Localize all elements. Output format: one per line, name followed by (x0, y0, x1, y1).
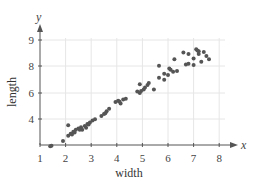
data-point (192, 57, 196, 61)
x-tick-label: 2 (63, 152, 69, 164)
x-tick-label: 5 (140, 152, 146, 164)
x-tick-label: 8 (216, 152, 222, 164)
scatter-chart: x y 12345678 4689 width length (0, 0, 258, 185)
data-point (166, 73, 170, 77)
y-axis-variable: y (35, 10, 42, 24)
x-tick-label: 7 (191, 152, 197, 164)
data-point (162, 72, 166, 76)
x-axis-arrow-icon (230, 142, 238, 148)
data-point (157, 64, 161, 68)
y-tick-label: 9 (29, 34, 35, 46)
data-point (181, 51, 185, 55)
data-point (167, 66, 171, 70)
data-point (207, 57, 211, 61)
x-tick-label: 1 (37, 152, 43, 164)
x-tick-label: 6 (165, 152, 171, 164)
y-axis-label: length (5, 77, 19, 107)
data-point (124, 97, 128, 101)
data-point (147, 81, 151, 85)
data-points (48, 47, 211, 148)
data-point (192, 63, 196, 67)
data-point (157, 76, 161, 80)
data-point (195, 49, 199, 53)
y-tick-label: 8 (29, 60, 35, 72)
data-point (172, 57, 176, 61)
y-axis-arrow-icon (37, 24, 43, 32)
data-point (61, 139, 65, 143)
data-point (93, 117, 97, 121)
data-point (107, 107, 111, 111)
data-point (152, 88, 156, 92)
x-tick-label: 3 (88, 152, 94, 164)
data-point (175, 69, 179, 73)
y-tick-label: 6 (29, 87, 35, 99)
axes: x y (35, 10, 247, 152)
data-point (204, 54, 208, 58)
data-point (103, 111, 107, 115)
data-point (117, 99, 121, 103)
data-point (87, 123, 91, 127)
data-point (187, 52, 191, 56)
data-point (199, 60, 203, 64)
x-ticks: 12345678 (37, 143, 222, 164)
data-point (171, 70, 175, 74)
data-point (187, 62, 191, 66)
x-axis-variable: x (240, 138, 247, 152)
x-tick-label: 4 (114, 152, 120, 164)
data-point (138, 82, 142, 86)
data-point (48, 144, 52, 148)
data-point (66, 123, 70, 127)
y-tick-label: 4 (29, 113, 35, 125)
data-point (202, 50, 206, 54)
data-point (73, 131, 77, 135)
data-point (78, 128, 82, 132)
data-point (162, 78, 166, 82)
data-point (84, 126, 88, 130)
x-axis-label: width (115, 166, 142, 180)
